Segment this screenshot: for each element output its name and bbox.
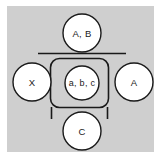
node-circle-bottom[interactable] [63,112,101,150]
diagram-shapes-layer [0,0,161,163]
node-circle-right[interactable] [115,63,153,101]
node-circle-top[interactable] [63,14,101,52]
node-circle-center[interactable] [65,66,99,100]
diagram-canvas: A, B X a, b, c A C [0,0,161,163]
node-circle-left[interactable] [13,63,51,101]
